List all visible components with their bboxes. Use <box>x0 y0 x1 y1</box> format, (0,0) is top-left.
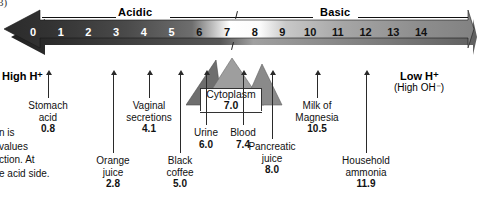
ph-tick-8: 8 <box>247 26 263 38</box>
callout-value: 10.5 <box>267 123 367 135</box>
callout-line: Stomach <box>0 100 98 112</box>
callout-line: coffee <box>130 167 230 179</box>
callout-value: 11.9 <box>316 178 416 190</box>
ph-tick-0: 0 <box>25 26 41 38</box>
ph-tick-10: 10 <box>302 26 318 38</box>
cytoplasm-value: 7.0 <box>200 100 262 111</box>
side-note: n isvaluesction. Ate acid side. <box>0 126 63 180</box>
ph-tick-11: 11 <box>330 26 346 38</box>
cytoplasm-box: Cytoplasm 7.0 <box>200 88 262 113</box>
header-rule-left <box>42 17 116 18</box>
ph-tick-13: 13 <box>385 26 401 38</box>
callout-line: secretions <box>99 112 199 124</box>
ph-tick-12: 12 <box>358 26 374 38</box>
callout-pancreatic-juice: Pancreaticjuice8.0 <box>222 141 322 176</box>
cytoplasm-box-left-edge <box>200 88 201 111</box>
basic-label: Basic <box>320 6 350 18</box>
ph-tick-6: 6 <box>191 26 207 38</box>
ph-tick-4: 4 <box>136 26 152 38</box>
ph-tick-1: 1 <box>53 26 69 38</box>
callout-milk-of-magnesia: Milk ofMagnesia10.5 <box>267 100 367 135</box>
leader-arrowhead-household-ammonia <box>364 70 370 75</box>
cytoplasm-box-right-edge <box>261 88 262 111</box>
ph-tick-14: 14 <box>413 26 429 38</box>
leader-line-stomach-acid <box>48 75 49 98</box>
callout-line: Pancreatic <box>222 141 322 153</box>
ph-tick-2: 2 <box>80 26 96 38</box>
callout-line: Vaginal <box>99 100 199 112</box>
ph-tick-9: 9 <box>274 26 290 38</box>
leader-line-milk-of-magnesia <box>317 75 318 98</box>
callout-line: Black <box>130 155 230 167</box>
side-note-line: values <box>0 140 63 154</box>
leader-arrowhead-urine <box>204 70 210 75</box>
callout-line: Household <box>316 155 416 167</box>
leader-arrowhead-orange-juice <box>111 70 117 75</box>
callout-line: acid <box>0 112 98 124</box>
header-rule-right <box>358 17 468 18</box>
figure-marker: 3) <box>0 0 7 8</box>
leader-arrowhead-pancreatic-juice <box>270 70 276 75</box>
high-h-label: High H⁺ <box>2 70 43 83</box>
callout-line: juice <box>222 153 322 165</box>
callout-line: Magnesia <box>267 112 367 124</box>
leader-line-blood <box>243 75 244 125</box>
leader-arrowhead-blood <box>241 70 247 75</box>
ph-tick-7: 7 <box>219 26 235 38</box>
side-note-line: n is <box>0 126 63 140</box>
leader-arrowhead-black-coffee <box>178 70 184 75</box>
ph-tick-3: 3 <box>108 26 124 38</box>
callout-line: Milk of <box>267 100 367 112</box>
callout-value: 8.0 <box>222 164 322 176</box>
high-oh-label: (High OH⁻) <box>394 82 444 93</box>
leader-line-vaginal-secretions <box>149 75 150 98</box>
leader-arrowhead-stomach-acid <box>46 70 52 75</box>
acidic-label: Acidic <box>118 6 152 18</box>
callout-black-coffee: Blackcoffee5.0 <box>130 155 230 190</box>
callout-line: ammonia <box>316 167 416 179</box>
leader-arrowhead-milk-of-magnesia <box>315 70 321 75</box>
side-note-line: e acid side. <box>0 167 63 181</box>
ph-scale-figure: 3) <box>0 0 477 202</box>
callout-household-ammonia: Householdammonia11.9 <box>316 155 416 190</box>
ph-tick-5: 5 <box>164 26 180 38</box>
callout-value: 5.0 <box>130 178 230 190</box>
leader-arrowhead-vaginal-secretions <box>147 70 153 75</box>
header-rule-mid <box>170 17 313 18</box>
side-note-line: ction. At <box>0 153 63 167</box>
leader-line-urine <box>206 75 207 125</box>
